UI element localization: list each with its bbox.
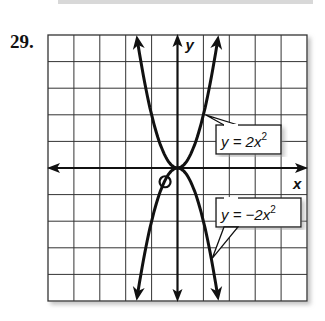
svg-text:y = −2x2: y = −2x2 <box>220 204 276 223</box>
svg-text:x: x <box>292 175 302 192</box>
graph: yx y = 2x2y = −2x2 <box>0 0 325 321</box>
svg-text:y: y <box>185 36 195 53</box>
svg-text:y = 2x2: y = 2x2 <box>220 131 267 150</box>
